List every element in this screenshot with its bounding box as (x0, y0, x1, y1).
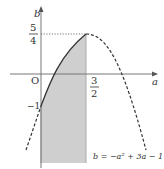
a-axis-label: a (152, 76, 158, 87)
curve-dashed-left (26, 106, 41, 150)
tick-5-4-denominator: 4 (30, 35, 36, 46)
tick-3-2-denominator: 2 (91, 88, 97, 99)
tick-neg-1: −1 (27, 101, 40, 111)
tick-3-2-numerator: 3 (91, 75, 97, 86)
tick-5-4-numerator: 5 (30, 22, 36, 33)
equation-label: b = −a² + 3a − 1 (93, 152, 163, 161)
origin-label: O (31, 75, 39, 86)
parabola-graph: b a O 5 4 −1 3 2 b = −a² + 3a − 1 (0, 0, 164, 169)
b-axis-label: b (34, 8, 40, 19)
shaded-region (41, 34, 86, 163)
